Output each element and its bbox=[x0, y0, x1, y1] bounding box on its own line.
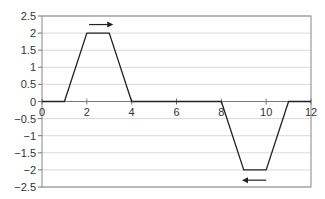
line-chart: 2.521.510.50−0.5−1−1.5−2−2.5 024681012 bbox=[0, 0, 325, 199]
y-tick-label: 0.5 bbox=[21, 78, 36, 90]
y-tick-label: 2.5 bbox=[21, 10, 36, 22]
y-tick-label: −1.5 bbox=[14, 147, 36, 159]
x-tick-label: 12 bbox=[305, 106, 317, 118]
y-tick-label: 2 bbox=[30, 27, 36, 39]
x-tick-label: 0 bbox=[39, 106, 45, 118]
y-axis: 2.521.510.50−0.5−1−1.5−2−2.5 bbox=[14, 10, 42, 193]
x-tick-label: 4 bbox=[129, 106, 135, 118]
x-tick-label: 6 bbox=[173, 106, 179, 118]
y-tick-label: −0.5 bbox=[14, 113, 36, 125]
y-tick-label: 0 bbox=[30, 96, 36, 108]
y-tick-label: 1 bbox=[30, 61, 36, 73]
arrowhead-icon bbox=[242, 177, 248, 183]
x-tick-label: 2 bbox=[84, 106, 90, 118]
y-tick-label: −2.5 bbox=[14, 181, 36, 193]
x-tick-label: 10 bbox=[260, 106, 272, 118]
y-tick-label: 1.5 bbox=[21, 44, 36, 56]
arrowhead-icon bbox=[107, 22, 113, 28]
y-tick-label: −2 bbox=[23, 164, 36, 176]
y-tick-label: −1 bbox=[23, 130, 36, 142]
